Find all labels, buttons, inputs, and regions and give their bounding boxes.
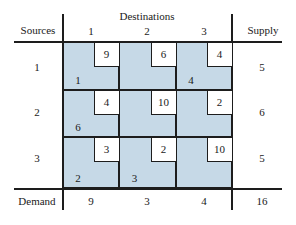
total-value: 16 [233, 195, 291, 207]
demand-value-1: 9 [63, 195, 119, 207]
tableau-cell-2-1[interactable]: 4 6 [63, 90, 119, 137]
demand-rule [14, 188, 282, 190]
allocation-value: 6 [64, 122, 92, 133]
tableau-cell-1-2[interactable]: 6 [119, 42, 176, 90]
cost-value: 10 [151, 90, 177, 115]
cost-value: 6 [151, 42, 177, 67]
cost-value: 2 [207, 90, 233, 115]
source-row-label-2: 2 [12, 106, 62, 118]
cost-value: 2 [151, 137, 177, 162]
supply-value-3: 5 [233, 152, 291, 164]
tableau-cell-3-1[interactable]: 3 2 [63, 137, 119, 188]
destination-column-header-3: 3 [176, 25, 232, 37]
tableau-cell-2-3[interactable]: 2 [176, 90, 232, 137]
demand-value-2: 3 [119, 195, 175, 207]
cost-value: 9 [94, 42, 120, 67]
destination-column-header-1: 1 [63, 25, 119, 37]
supply-header: Supply [233, 24, 293, 36]
tableau-cell-1-1[interactable]: 9 1 [63, 42, 119, 90]
tableau-cell-3-3[interactable]: 10 [176, 137, 232, 188]
destinations-header: Destinations [64, 10, 230, 22]
transportation-tableau: Sources Destinations Supply 1 2 3 1 2 3 … [0, 0, 296, 225]
allocation-value: 4 [177, 75, 205, 86]
destination-column-header-2: 2 [119, 25, 175, 37]
source-row-label-3: 3 [12, 152, 62, 164]
tableau-cell-1-3[interactable]: 4 4 [176, 42, 232, 90]
source-row-label-1: 1 [12, 61, 62, 73]
cost-value: 4 [207, 42, 233, 67]
tableau-cell-3-2[interactable]: 2 3 [119, 137, 176, 188]
supply-value-2: 6 [233, 106, 291, 118]
sources-header: Sources [12, 24, 64, 36]
cost-value: 3 [94, 137, 120, 162]
cost-value: 10 [207, 137, 233, 162]
allocation-value: 2 [64, 173, 92, 184]
supply-value-1: 5 [233, 61, 291, 73]
cost-value: 4 [94, 90, 120, 115]
demand-value-3: 4 [176, 195, 232, 207]
allocation-value: 1 [64, 75, 92, 86]
allocation-value: 3 [120, 173, 149, 184]
tableau-cell-2-2[interactable]: 10 [119, 90, 176, 137]
demand-label: Demand [10, 195, 64, 207]
